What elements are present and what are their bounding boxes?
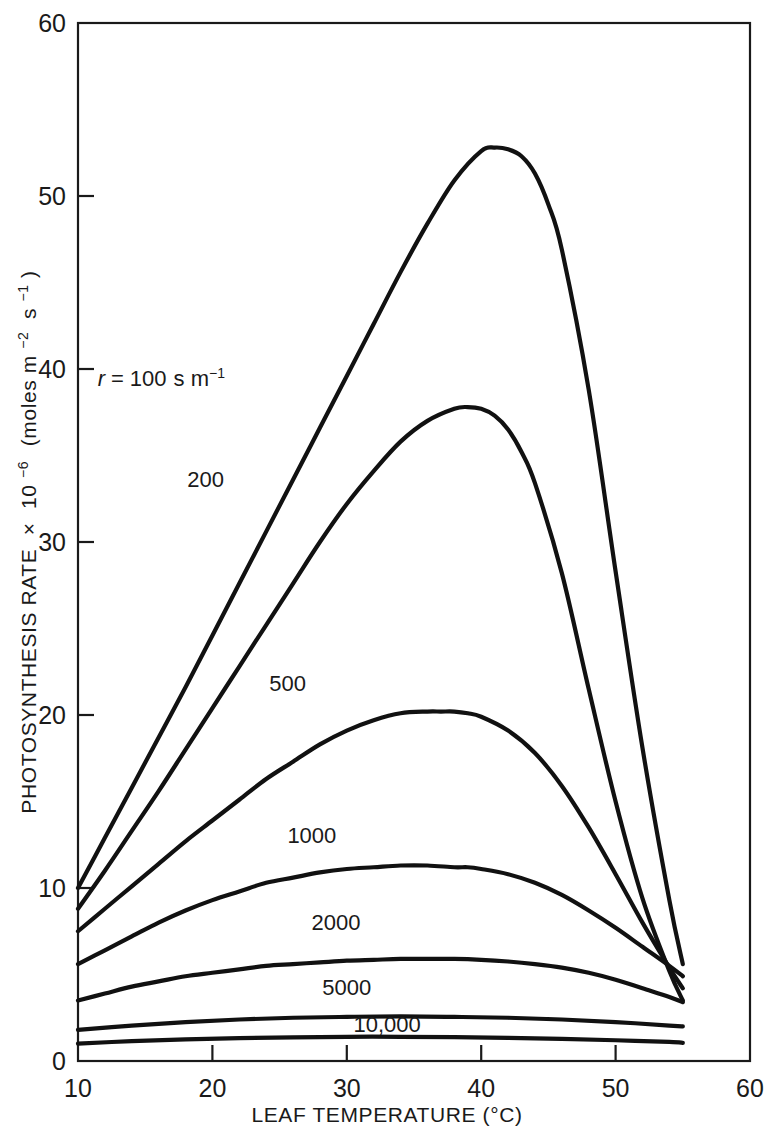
y-tick-label-30: 30 [38, 528, 66, 556]
y-axis-title-main: PHOTOSYNTHESIS RATE [17, 549, 40, 814]
curve-label-r-1000: 1000 [287, 823, 336, 848]
parameter-symbol: r [98, 366, 107, 391]
curve-r-500 [78, 711, 683, 988]
curve-label-r-500: 500 [269, 671, 306, 696]
parameter-units-exponent: −1 [209, 365, 225, 381]
parameter-value: 100 [130, 366, 167, 391]
y-axis-title: PHOTOSYNTHESIS RATE × 10 −6 (moles m −2 … [9, 270, 40, 813]
y-tick-label-20: 20 [38, 701, 66, 729]
curve-label-r-100: r=100s m−1 [98, 365, 226, 391]
x-tick-label-20: 20 [198, 1074, 226, 1102]
y-axis-title-times: × [17, 522, 40, 535]
x-tick-label-60: 60 [736, 1074, 764, 1102]
y-tick-label-60: 60 [38, 9, 66, 37]
chart-canvas: 102030405060 0102030405060 r=100s m−1200… [0, 0, 774, 1134]
y-tick-label-40: 40 [38, 355, 66, 383]
curve-r-10000 [78, 1037, 683, 1044]
data-series-group [78, 147, 683, 1043]
x-tick-label-30: 30 [333, 1074, 361, 1102]
x-tick-label-50: 50 [602, 1074, 630, 1102]
curve-r-2000 [78, 959, 683, 1002]
y-tick-label-0: 0 [52, 1047, 66, 1075]
equals-sign: = [111, 366, 124, 391]
y-axis-title-exponent: −6 [15, 461, 31, 478]
series-inline-labels: r=100s m−120050010002000500010,000 [98, 365, 421, 1036]
curve-label-r-2000: 2000 [312, 910, 361, 935]
y-axis-title-units-s: s [17, 308, 40, 319]
svg-text:PHOTOSYNTHESIS RATE ×: PHOTOSYNTHESIS RATE × 10 −6 (moles m −2 … [9, 270, 40, 813]
y-axis-title-units-open: (moles m [17, 355, 40, 446]
curve-label-r-200: 200 [187, 467, 224, 492]
y-axis-title-base: 10 [17, 484, 40, 509]
parameter-units: s m [174, 366, 209, 391]
x-axis-tick-labels: 102030405060 [64, 1074, 764, 1102]
curve-r-100 [78, 147, 683, 964]
x-axis-ticks [212, 1045, 615, 1061]
y-axis-title-units-exp1: −2 [15, 332, 31, 349]
y-tick-label-50: 50 [38, 182, 66, 210]
y-tick-label-10: 10 [38, 874, 66, 902]
y-axis-tick-labels: 0102030405060 [38, 9, 66, 1075]
x-tick-label-10: 10 [64, 1074, 92, 1102]
y-axis-title-units-close: ) [17, 270, 40, 278]
x-axis-title: LEAF TEMPERATURE (°C) [251, 1103, 522, 1126]
plot-frame [78, 23, 750, 1061]
photosynthesis-temperature-figure: 102030405060 0102030405060 r=100s m−1200… [0, 0, 774, 1134]
y-axis-ticks [78, 196, 94, 888]
x-tick-label-40: 40 [467, 1074, 495, 1102]
y-axis-title-units-exp2: −1 [15, 284, 31, 301]
curve-label-r-5000: 5000 [322, 975, 371, 1000]
curve-label-r-10000: 10,000 [353, 1012, 420, 1037]
